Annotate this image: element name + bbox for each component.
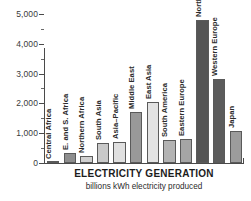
bar-slot: South America xyxy=(163,8,175,163)
bar[interactable] xyxy=(113,142,125,163)
bar[interactable] xyxy=(196,20,208,163)
chart-title: ELECTRICITY GENERATION xyxy=(44,168,244,180)
title-block: ELECTRICITY GENERATION billions kWh elec… xyxy=(44,168,244,192)
bar[interactable] xyxy=(147,102,159,163)
y-axis-tick xyxy=(39,103,44,104)
y-axis-tick xyxy=(39,14,44,15)
y-axis-minor-tick xyxy=(41,59,44,60)
y-axis-tick-label: 2,000 xyxy=(16,98,38,108)
bar[interactable] xyxy=(180,139,192,163)
bar[interactable] xyxy=(47,161,59,163)
y-axis-tick-label: 5,000 xyxy=(16,9,38,19)
y-axis-minor-tick xyxy=(41,29,44,30)
bar[interactable] xyxy=(230,131,242,163)
y-axis-minor-tick xyxy=(41,88,44,89)
bar-category-label: Japan xyxy=(227,106,236,128)
bar-category-label: Middle East xyxy=(127,67,136,110)
bar-slot: Asia–Pacific xyxy=(113,8,125,163)
bar-category-label: Northern Africa xyxy=(77,97,86,153)
bar[interactable] xyxy=(213,79,225,163)
chart-figure: 01,0002,0003,0004,0005,000 Central Afric… xyxy=(0,0,251,201)
y-axis-tick xyxy=(39,163,44,164)
y-axis-tick xyxy=(39,74,44,75)
bar-slot: Japan xyxy=(230,8,242,163)
bar-category-label: South America xyxy=(160,83,169,137)
bar-category-label: South Asia xyxy=(94,100,103,140)
bar-slot: South Asia xyxy=(97,8,109,163)
bar-category-label: North America xyxy=(194,0,203,17)
bar-category-label: Eastern Europe xyxy=(177,79,186,136)
y-axis-tick-label: 1,000 xyxy=(16,128,38,138)
bar-category-label: East Asia xyxy=(144,65,153,99)
bar-slot: East Asia xyxy=(147,8,159,163)
bar-slot: E. and S. Africa xyxy=(64,8,76,163)
bar-slot: Middle East xyxy=(130,8,142,163)
bar-slot: Eastern Europe xyxy=(180,8,192,163)
bar[interactable] xyxy=(64,153,76,163)
y-axis-tick xyxy=(39,44,44,45)
bar-category-label: Asia–Pacific xyxy=(111,94,120,139)
y-axis-tick-label: 0 xyxy=(33,158,38,168)
bar-slot: Northern Africa xyxy=(80,8,92,163)
chart-subtitle: billions kWh electricity produced xyxy=(44,181,244,192)
bar[interactable] xyxy=(130,112,142,163)
bar-category-label: Western Europe xyxy=(210,17,219,76)
bar-category-label: E. and S. Africa xyxy=(61,94,70,150)
x-axis-line xyxy=(44,163,244,164)
bar-series: Central AfricaE. and S. AfricaNorthern A… xyxy=(45,8,244,163)
bar-category-label: Central Africa xyxy=(44,109,53,159)
y-axis-tick-label: 4,000 xyxy=(16,39,38,49)
bar-slot: Central Africa xyxy=(47,8,59,163)
bar[interactable] xyxy=(80,156,92,163)
bar-slot: Western Europe xyxy=(213,8,225,163)
y-axis-tick-label: 3,000 xyxy=(16,69,38,79)
bar[interactable] xyxy=(97,143,109,163)
bar[interactable] xyxy=(163,140,175,163)
plot-area: 01,0002,0003,0004,0005,000 Central Afric… xyxy=(44,8,244,163)
bar-slot: North America xyxy=(196,8,208,163)
